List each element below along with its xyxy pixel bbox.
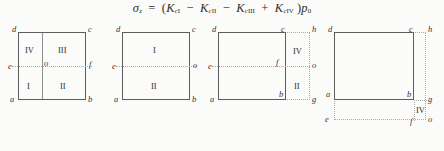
panel-c-label-e: e bbox=[208, 62, 212, 71]
panel-a-label-f: f bbox=[89, 60, 91, 69]
equation-lhs-subscript: z bbox=[139, 7, 142, 15]
panel-d-region-iv: IV bbox=[416, 106, 425, 115]
panel-c-stage: d c h a b g e f o IV II bbox=[206, 25, 316, 127]
figure-root: σz = (KcI − KcII − KcIII + KcIV)p0 d c a… bbox=[0, 0, 444, 151]
panel-a-region-ii: II bbox=[60, 82, 66, 91]
panel-a-label-c: c bbox=[88, 25, 92, 34]
equation-term-4-subscript: cIV bbox=[283, 7, 294, 15]
panel-c-label-d: d bbox=[212, 25, 216, 34]
panel-d-stage: d c h a b g e f o IV bbox=[322, 25, 440, 127]
panel-d-horizontal-extension bbox=[414, 100, 427, 101]
panel-d-label-o: o bbox=[428, 115, 432, 124]
equation-sigma-z: σz = (KcI − KcII − KcIII + KcIV)p0 bbox=[0, 1, 444, 16]
panel-a-label-b: b bbox=[88, 95, 92, 104]
equation-term-3: K bbox=[236, 1, 245, 15]
equation-operator-3: + bbox=[261, 1, 268, 15]
panel-b-region-ii: II bbox=[151, 82, 157, 91]
panel-a-horizontal-divider bbox=[12, 66, 92, 67]
panel-b-horizontal-divider bbox=[116, 66, 196, 67]
panel-d-label-g: g bbox=[428, 95, 432, 104]
panel-d-label-d: d bbox=[328, 25, 332, 34]
panel-a-region-i: I bbox=[27, 82, 30, 91]
panel-b: d c a b e o I II (b) bbox=[110, 25, 214, 127]
panel-a-label-e: e bbox=[8, 62, 12, 71]
panel-b-label-o: o bbox=[193, 61, 197, 70]
equation-operator-2: − bbox=[223, 1, 230, 15]
panel-d-label-h: h bbox=[428, 25, 432, 34]
equation-term-1: K bbox=[166, 1, 175, 15]
panel-d-label-e: e bbox=[325, 115, 329, 124]
panel-c-label-b: b bbox=[279, 90, 283, 99]
panel-a-region-iii: III bbox=[58, 46, 67, 55]
panel-a: d c a b e f o IV III I II (a) bbox=[6, 25, 110, 127]
panel-b-label-a: a bbox=[114, 95, 118, 104]
panel-d-main-square bbox=[334, 32, 414, 100]
equation-operator-1: − bbox=[186, 1, 193, 15]
equation-term-2: K bbox=[200, 1, 209, 15]
panel-c-region-iv: IV bbox=[293, 47, 302, 56]
panel-c-label-a: a bbox=[210, 95, 214, 104]
panel-a-label-o: o bbox=[44, 59, 48, 68]
panel-c-label-g: g bbox=[312, 95, 316, 104]
equation-term-3-subscript: cIII bbox=[245, 7, 255, 15]
panel-a-region-iv: IV bbox=[25, 46, 34, 55]
panel-c: d c h a b g e f o IV II (c) bbox=[206, 25, 316, 127]
panel-d-label-b: b bbox=[407, 90, 411, 99]
panel-b-label-c: c bbox=[192, 25, 196, 34]
panel-c-label-h: h bbox=[312, 25, 316, 34]
panel-b-label-b: b bbox=[192, 95, 196, 104]
panel-d-label-f: f bbox=[410, 117, 412, 126]
panel-d-vertical-extension bbox=[414, 100, 415, 121]
panel-c-label-c: c bbox=[281, 25, 285, 34]
panel-a-label-d: d bbox=[12, 25, 16, 34]
equation-term-2-subscript: cII bbox=[209, 7, 217, 15]
panel-d: d c h a b g e f o IV (d) bbox=[322, 25, 440, 127]
panel-c-region-ii: II bbox=[294, 82, 300, 91]
panel-b-region-i: I bbox=[153, 46, 156, 55]
panel-a-stage: d c a b e f o IV III I II bbox=[6, 25, 110, 127]
panel-c-horizontal-divider bbox=[212, 66, 310, 67]
panel-c-label-f: f bbox=[276, 58, 278, 67]
panel-d-label-a: a bbox=[326, 90, 330, 99]
panel-d-label-c: c bbox=[409, 25, 413, 34]
panel-a-label-a: a bbox=[10, 95, 14, 104]
panel-b-stage: d c a b e o I II bbox=[110, 25, 214, 127]
equation-trailing-subscript: 0 bbox=[308, 7, 312, 15]
panel-c-label-o: o bbox=[312, 61, 316, 70]
equation-term-1-subscript: cI bbox=[175, 7, 180, 15]
panel-b-label-d: d bbox=[116, 25, 120, 34]
panel-b-label-e: e bbox=[112, 62, 116, 71]
equation-equals: = bbox=[148, 1, 155, 15]
